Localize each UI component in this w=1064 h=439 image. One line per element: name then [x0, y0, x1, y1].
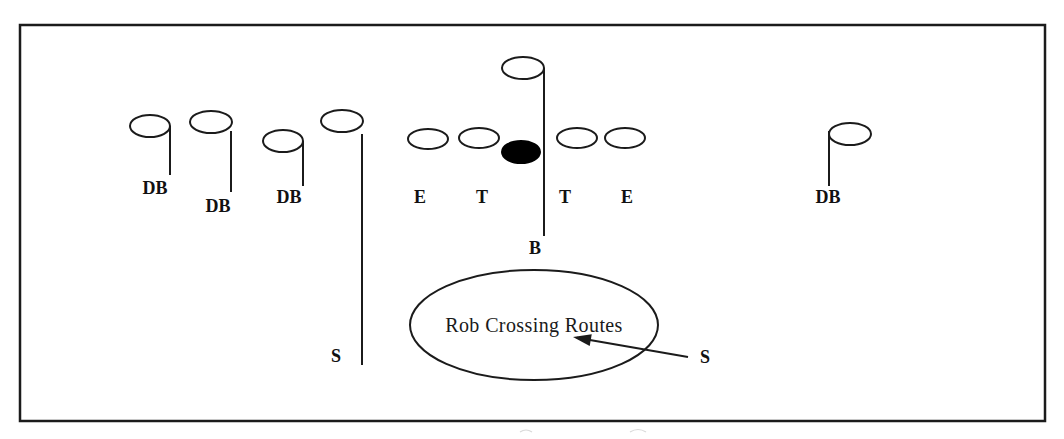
- scan-smudge-right: [630, 430, 646, 433]
- position-label-end-left: E: [414, 187, 426, 207]
- player-marker-tackle-right[interactable]: [557, 128, 597, 148]
- position-label-tackle-left: T: [476, 187, 488, 207]
- position-label-db-left-2: DB: [205, 196, 230, 216]
- player-marker-backer-mike[interactable]: [502, 57, 544, 79]
- player-marker-safety-left[interactable]: [321, 110, 363, 132]
- position-label-db-left-1: DB: [142, 178, 167, 198]
- player-marker-db-left-3[interactable]: [263, 130, 303, 152]
- field-border: [20, 25, 1045, 421]
- position-label-tackle-right: T: [559, 187, 571, 207]
- safety-arrow-group: S: [573, 334, 710, 367]
- position-label-end-right: E: [621, 187, 633, 207]
- scan-smudge-left: [520, 430, 532, 432]
- player-marker-end-left[interactable]: [408, 129, 448, 149]
- position-label-db-right-1: DB: [815, 187, 840, 207]
- player-marker-db-right-1[interactable]: [829, 123, 871, 145]
- player-marker-db-left-2[interactable]: [190, 111, 232, 133]
- position-label-db-left-3: DB: [276, 187, 301, 207]
- player-labels-group: DBDBDBSETTEBDB: [142, 178, 840, 366]
- player-markers-group: [130, 57, 871, 163]
- callout-text: Rob Crossing Routes: [445, 314, 623, 337]
- play-diagram-canvas: DBDBDBSETTEBDB Rob Crossing Routes S: [0, 0, 1064, 439]
- play-diagram: DBDBDBSETTEBDB Rob Crossing Routes S: [0, 0, 1064, 439]
- arrow-safety-label: S: [700, 347, 710, 367]
- position-label-safety-left: S: [331, 346, 341, 366]
- player-marker-ball-center[interactable]: [502, 141, 540, 163]
- arrow-shaft: [577, 338, 688, 357]
- position-label-backer-mike: B: [529, 238, 541, 258]
- player-marker-db-left-1[interactable]: [130, 115, 170, 137]
- player-marker-end-right[interactable]: [605, 128, 645, 148]
- player-marker-tackle-left[interactable]: [459, 128, 499, 148]
